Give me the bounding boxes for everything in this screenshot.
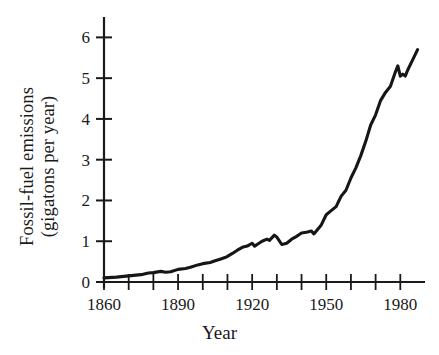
y-axis-label-line-1: Fossil-fuel emissions [17,61,38,271]
y-axis-label: Fossil-fuel emissions (gigatons per year… [17,61,60,271]
y-tick-label-1: 1 [82,232,91,251]
y-tick-label-3: 3 [82,151,91,170]
data-series-group [104,50,418,278]
data-series-0 [104,50,418,278]
chart-figure: 012345618601890192019501980 Fossil-fuel … [0,0,439,355]
x-tick-label-1920: 1920 [235,295,269,314]
y-tick-label-6: 6 [82,28,91,47]
x-tick-label-1890: 1890 [161,295,195,314]
tick-labels-group: 012345618601890192019501980 [82,28,418,314]
x-tick-label-1860: 1860 [87,295,121,314]
x-tick-label-1980: 1980 [383,295,417,314]
x-axis-label: Year [0,322,439,344]
y-tick-label-4: 4 [82,110,91,129]
x-tick-label-1950: 1950 [309,295,343,314]
y-tick-label-5: 5 [82,69,91,88]
chart-plot-area: 012345618601890192019501980 [0,0,439,355]
y-tick-label-2: 2 [82,191,91,210]
y-axis-label-line-2: (gigatons per year) [38,61,59,271]
axes-group [104,17,425,288]
tick-marks-group [96,37,400,290]
y-tick-label-0: 0 [82,273,91,292]
